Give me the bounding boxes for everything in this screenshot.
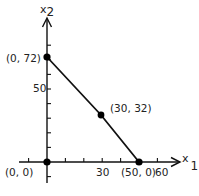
point-label-30-32: (30, 32) xyxy=(110,102,152,114)
point-label-0-0: (0, 0) xyxy=(5,166,33,178)
vertex-0-72 xyxy=(43,53,50,60)
x-tick-label-30: 30 xyxy=(96,166,109,178)
x-tick-label-60: 60 xyxy=(155,166,168,178)
y-tick-label-50: 50 xyxy=(33,82,46,94)
diagram-canvas: x2 x1 50 30 60 (0, 72) (30, 32) (50, 0) … xyxy=(0,0,199,196)
vertex-30-32 xyxy=(98,112,105,119)
y-axis-label: x2 xyxy=(40,3,54,19)
vertex-50-0 xyxy=(135,158,142,165)
vertex-origin xyxy=(43,158,50,165)
point-label-0-72: (0, 72) xyxy=(6,52,41,64)
point-label-50-0: (50, 0) xyxy=(121,166,156,178)
x-axis-label: x1 xyxy=(182,152,198,173)
